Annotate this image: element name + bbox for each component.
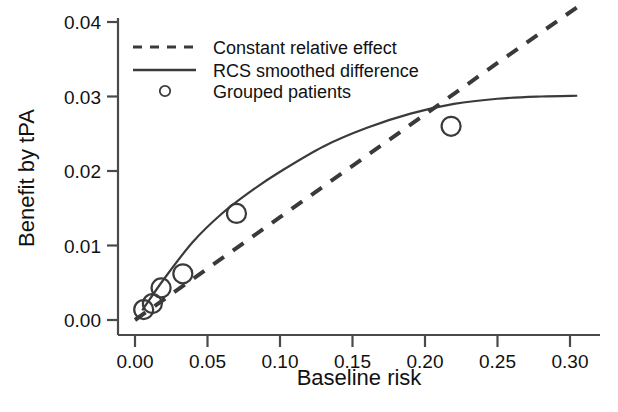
y-axis-tick-labels: 0.000.010.020.030.04 bbox=[64, 12, 101, 331]
data-point bbox=[173, 264, 192, 283]
y-tick-label: 0.04 bbox=[64, 12, 101, 33]
grouped-patients-points bbox=[134, 117, 460, 319]
legend-label-grouped-patients: Grouped patients bbox=[213, 82, 351, 102]
x-tick-label: 0.00 bbox=[117, 351, 154, 372]
x-tick-label: 0.05 bbox=[189, 351, 226, 372]
open-circle-icon bbox=[160, 86, 170, 96]
scatter-plot: 0.000.010.020.030.04 0.000.050.100.150.2… bbox=[0, 0, 618, 412]
y-tick-label: 0.02 bbox=[64, 161, 101, 182]
x-tick-label: 0.30 bbox=[552, 351, 589, 372]
data-point bbox=[227, 204, 246, 223]
legend-item-rcs-smoothed-difference: RCS smoothed difference bbox=[133, 61, 419, 81]
y-axis-ticks bbox=[107, 22, 118, 320]
legend-label-constant-relative-effect: Constant relative effect bbox=[213, 38, 397, 58]
y-tick-label: 0.01 bbox=[64, 236, 101, 257]
legend-item-constant-relative-effect: Constant relative effect bbox=[133, 38, 397, 58]
x-axis-ticks bbox=[135, 335, 570, 347]
data-point bbox=[442, 117, 461, 136]
chart-container: 0.000.010.020.030.04 0.000.050.100.150.2… bbox=[0, 0, 618, 412]
y-tick-label: 0.00 bbox=[64, 310, 101, 331]
rcs-smoothed-difference-curve bbox=[142, 96, 577, 311]
chart-legend: Constant relative effect RCS smoothed di… bbox=[133, 38, 419, 102]
x-axis-title: Baseline risk bbox=[297, 365, 423, 390]
y-tick-label: 0.03 bbox=[64, 87, 101, 108]
legend-item-grouped-patients: Grouped patients bbox=[160, 82, 351, 102]
legend-label-rcs-smoothed-difference: RCS smoothed difference bbox=[213, 61, 419, 81]
x-tick-label: 0.10 bbox=[262, 351, 299, 372]
y-axis-title: Benefit by tPA bbox=[14, 109, 39, 247]
x-tick-label: 0.25 bbox=[479, 351, 516, 372]
